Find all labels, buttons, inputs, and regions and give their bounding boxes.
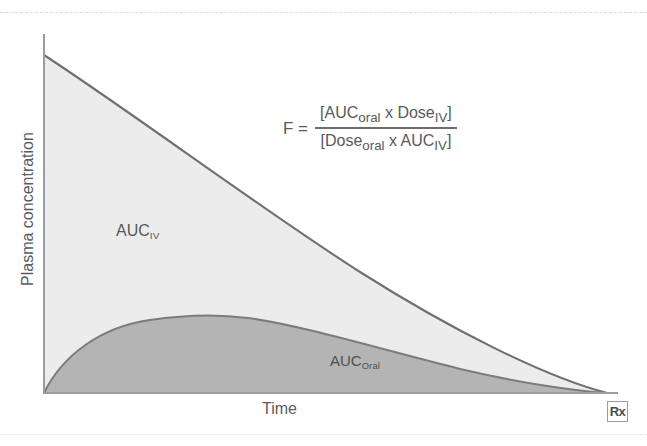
auc-iv-annotation: AUCIV xyxy=(116,222,160,240)
denominator-open: [Dose xyxy=(320,132,362,149)
auc-oral-subscript: Oral xyxy=(362,361,380,371)
auc-plot xyxy=(0,0,647,446)
auc-iv-text: AUC xyxy=(116,222,150,239)
auc-oral-text: AUC xyxy=(330,352,362,369)
x-axis-label: Time xyxy=(262,400,297,418)
formula-numerator: [AUCoral x DoseIV] xyxy=(315,104,457,127)
formula-fraction: [AUCoral x DoseIV] [Doseoral x AUCIV] xyxy=(315,104,457,153)
denominator-close: ] xyxy=(447,132,451,149)
numerator-close: ] xyxy=(447,104,451,121)
denominator-sub-iv: IV xyxy=(434,138,447,153)
numerator-open: [AUC xyxy=(320,104,358,121)
bioavailability-formula: F = [AUCoral x DoseIV] [Doseoral x AUCIV… xyxy=(283,104,457,153)
numerator-mid: x Dose xyxy=(381,104,435,121)
auc-iv-subscript: IV xyxy=(150,230,160,241)
formula-lhs: F = xyxy=(283,119,308,139)
bioavailability-figure: Plasma concentration Time AUCIV AUCOral … xyxy=(0,0,647,446)
formula-denominator: [Doseoral x AUCIV] xyxy=(315,129,456,153)
numerator-sub-oral: oral xyxy=(358,110,380,125)
numerator-sub-iv: IV xyxy=(435,110,448,125)
auc-oral-annotation: AUCOral xyxy=(330,352,380,369)
denominator-mid: x AUC xyxy=(385,132,435,149)
y-axis-label: Plasma concentration xyxy=(19,109,37,309)
rx-prescription-icon: Rx xyxy=(607,401,628,422)
denominator-sub-oral: oral xyxy=(362,138,384,153)
